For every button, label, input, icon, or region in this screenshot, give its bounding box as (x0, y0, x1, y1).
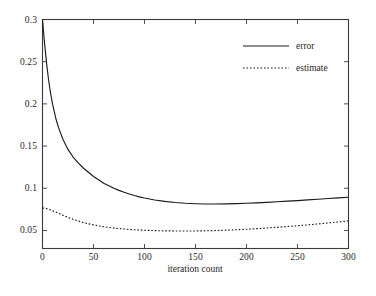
x-axis-title: iteration count (167, 264, 222, 274)
y-tick-label: 0.1 (0, 183, 37, 193)
axis-ticks (43, 20, 349, 249)
y-tick-label: 0.3 (0, 15, 37, 25)
x-tick-label: 300 (341, 252, 356, 262)
y-tick-label: 0.25 (0, 57, 37, 67)
y-tick-label: 0.05 (0, 225, 37, 235)
chart-figure: 0.050.10.150.20.250.3 050100150200250300… (0, 0, 376, 296)
x-tick-label: 100 (137, 252, 152, 262)
y-tick-label: 0.2 (0, 99, 37, 109)
axes-frame (43, 20, 349, 249)
y-tick-label: 0.15 (0, 141, 37, 151)
x-tick-label: 250 (290, 252, 305, 262)
plot-border (43, 20, 349, 249)
x-tick-label: 150 (188, 252, 203, 262)
series-line-estimate (43, 208, 349, 231)
x-tick-label: 200 (239, 252, 254, 262)
legend-label-estimate: estimate (296, 63, 328, 73)
legend-sample-lines (243, 46, 289, 68)
legend-label-error: error (296, 41, 314, 51)
x-tick-label: 50 (89, 252, 99, 262)
x-tick-label: 0 (40, 252, 45, 262)
data-series (43, 20, 349, 232)
